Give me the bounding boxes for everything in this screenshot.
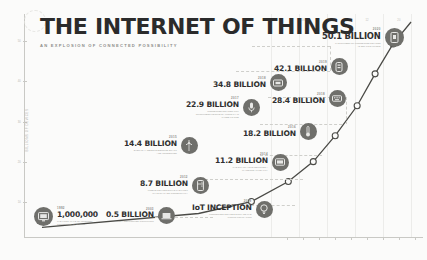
callout-value: 11.2 BILLION <box>215 157 268 165</box>
callout-value: 42.1 BILLION <box>274 65 327 73</box>
callout-desc: EARLY NETWORKED COMPUTING <box>108 220 154 223</box>
appliance-icon <box>272 154 289 171</box>
leader-line <box>195 179 303 180</box>
callout-14-4-billion: 2015 14.4 BILLION EVERYDAY OBJECTS BECOM… <box>124 136 198 155</box>
callout-34-8-billion: 2018 34.8 BILLION <box>213 74 287 91</box>
y-tick-label: 50 <box>18 39 21 42</box>
desktop-computer-icon <box>34 207 53 226</box>
y-tick-label: 20 <box>18 160 21 163</box>
callout-22-9-billion: 2017 22.9 BILLION CONNECTED DEVICES WILL… <box>186 97 260 119</box>
page-title: THE INTERNET OF THINGS <box>40 16 355 38</box>
callout-value: 14.4 BILLION <box>124 140 177 148</box>
smart-device-icon <box>331 58 348 75</box>
header: THE INTERNET OF THINGS AN EXPLOSION OF C… <box>40 16 355 48</box>
callout-value: 1,000,000 <box>57 211 103 219</box>
callout-1-million: 1992 1,000,000 THE FIRST WAVE OF INTERNE… <box>34 207 103 226</box>
camera-icon <box>270 74 287 91</box>
microphone-icon <box>243 99 260 116</box>
callout-desc: THE SMART HOME BECOMES A MAINSTREAM REAL… <box>222 166 268 172</box>
callout-value: 50.1 BILLION <box>322 32 381 40</box>
callout-desc: CONNECTED DEVICES SURPASS THE WORLD POPU… <box>206 213 252 219</box>
wind-turbine-icon <box>181 137 198 154</box>
y-tick-label: 10 <box>18 201 21 204</box>
fridge-icon <box>192 177 209 194</box>
callout-desc: THE FIRST WAVE OF INTERNET CONNECTED MAC… <box>57 220 103 226</box>
iot-infographic: 50 40 30 20 10 00 04 12 20 <box>0 0 427 260</box>
callout-28-4-billion: 2018 28.4 BILLION <box>272 90 346 107</box>
callout-18-2-billion: 2016 18.2 BILLION <box>243 123 317 140</box>
callout-42-1-billion: 2019 42.1 BILLION <box>274 58 348 75</box>
keyboard-icon <box>329 90 346 107</box>
callout-value: 34.8 BILLION <box>213 81 266 89</box>
laptop-icon <box>158 207 175 224</box>
y-tick-label: 40 <box>18 80 21 83</box>
thermostat-icon <box>300 123 317 140</box>
callout-iot-inception: 2009 IoT INCEPTION CONNECTED DEVICES SUR… <box>192 200 273 219</box>
callout-value: 28.4 BILLION <box>272 97 325 105</box>
callout-11-2-billion: 2014 11.2 BILLION THE SMART HOME BECOMES… <box>215 153 289 172</box>
callout-value: 22.9 BILLION <box>186 101 239 109</box>
callout-value: 18.2 BILLION <box>243 130 296 138</box>
callout-50-1-billion: 2020 50.1 BILLION THE NUMBER OF CONNECTE… <box>322 28 404 48</box>
callout-desc: THE NUMBER OF CONNECTED DEVICES IS SET T… <box>335 42 381 48</box>
callout-0-5-billion: 2003 0.5 BILLION EARLY NETWORKED COMPUTI… <box>106 207 175 224</box>
callout-value: 0.5 BILLION <box>106 211 154 219</box>
callout-8-7-billion: 2012 8.7 BILLION MOBILE DEVICES DRIVE TH… <box>140 176 209 195</box>
y-axis-title: BILLIONS OF DEVICES <box>25 109 29 152</box>
tablet-icon <box>385 28 404 47</box>
callout-value: IoT INCEPTION <box>192 204 252 212</box>
lightbulb-icon <box>256 201 273 218</box>
y-tick-label: 30 <box>18 120 21 123</box>
callout-desc: EVERYDAY OBJECTS BECOME SMART AND CONNEC… <box>131 149 177 155</box>
callout-value: 8.7 BILLION <box>140 180 188 188</box>
leader-line <box>252 46 330 47</box>
callout-desc: CONNECTED DEVICES WILL OUTNUMBER PEOPLE … <box>193 110 239 119</box>
callout-desc: MOBILE DEVICES DRIVE THE FIRST WAVE OF M… <box>142 189 188 195</box>
leader-line <box>346 97 347 124</box>
